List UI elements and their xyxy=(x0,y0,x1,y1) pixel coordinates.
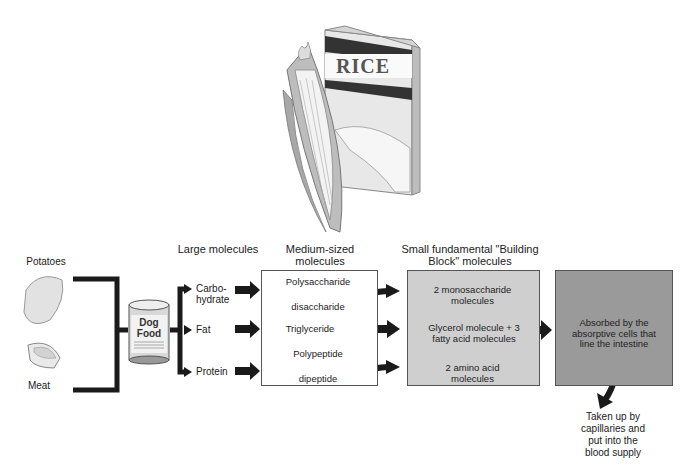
source-bracket xyxy=(73,279,128,390)
source-label-meat: Meat xyxy=(14,380,64,391)
absorption-text: Absorbed by the absorptive cells that li… xyxy=(568,318,660,350)
header-small-molecules: Small fundamental "Building Block" molec… xyxy=(400,243,540,267)
source-label-potatoes: Potatoes xyxy=(14,256,78,267)
medium-fat: Triglyceride xyxy=(265,324,355,335)
medium-protein-from: Polypeptide xyxy=(270,349,366,360)
header-large-molecules: Large molecules xyxy=(168,243,268,255)
large-molecule-fat: Fat xyxy=(196,324,234,335)
can-label-line2: Food xyxy=(131,328,167,339)
large-molecule-protein: Protein xyxy=(196,366,234,377)
meat-illustration xyxy=(28,343,60,368)
can-label: Dog Food xyxy=(131,317,167,339)
potato-illustration xyxy=(24,277,63,324)
medium-protein-to: dipeptide xyxy=(270,374,366,385)
small-protein: 2 amino acid molecules xyxy=(430,363,515,384)
medium-carb-from: Polysaccharide xyxy=(270,277,366,288)
small-carb: 2 monosaccharide molecules xyxy=(425,285,520,306)
large-molecule-carbohydrate: Carbo- hydrate xyxy=(196,283,234,305)
header-medium-molecules: Medium-sized molecules xyxy=(270,243,370,267)
branch-arrows xyxy=(184,284,192,377)
medium-carb-to: disaccharide xyxy=(270,302,366,313)
arrows-to-medium xyxy=(235,281,260,380)
can-label-line1: Dog xyxy=(131,317,167,328)
blood-supply-text: Taken up by capillaries and put into the… xyxy=(578,411,648,459)
branch-lines xyxy=(170,289,186,372)
small-fat: Glycerol molecule + 3 fatty acid molecul… xyxy=(418,323,530,344)
rice-label: RICE xyxy=(336,55,406,78)
